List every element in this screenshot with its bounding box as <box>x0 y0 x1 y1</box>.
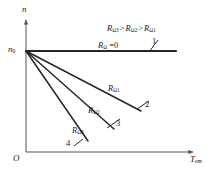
r1-sub: Ω1 <box>113 87 120 93</box>
speed-torque-characteristic-figure: n Tem O n0 RΩ3>RΩ2>RΩ1 RΩ =0 RΩ1 RΩ2 RΩ3… <box>0 0 213 181</box>
curve-marker-2: 2 <box>145 100 149 109</box>
origin-label: O <box>13 154 20 163</box>
r0-suffix: =0 <box>107 40 118 50</box>
legend-r1-sub: Ω1 <box>149 27 156 33</box>
n0-sub: 0 <box>13 48 16 54</box>
legend-r3-sub: Ω3 <box>112 27 119 33</box>
n0-label: n0 <box>8 45 15 55</box>
curve-marker-1: 1 <box>152 37 156 46</box>
legend-inequality: RΩ3>RΩ2>RΩ1 <box>107 24 156 33</box>
x-axis-label-sub: em <box>195 158 202 164</box>
curve-label-r1: RΩ1 <box>108 84 120 93</box>
legend-gt-1: > <box>119 23 126 33</box>
leader-line-4 <box>74 139 83 146</box>
curve-label-r3: RΩ3 <box>72 126 84 135</box>
y-axis-label: n <box>22 5 27 14</box>
curve-label-r0: RΩ =0 <box>98 41 118 50</box>
x-axis-label: Tem <box>190 155 202 165</box>
curve-marker-4: 4 <box>66 139 70 148</box>
curve-label-r2: RΩ2 <box>88 106 100 115</box>
r2-sub: Ω2 <box>93 109 100 115</box>
curve-marker-3: 3 <box>116 119 120 128</box>
r3-sub: Ω3 <box>77 129 84 135</box>
curve-group <box>26 51 176 141</box>
